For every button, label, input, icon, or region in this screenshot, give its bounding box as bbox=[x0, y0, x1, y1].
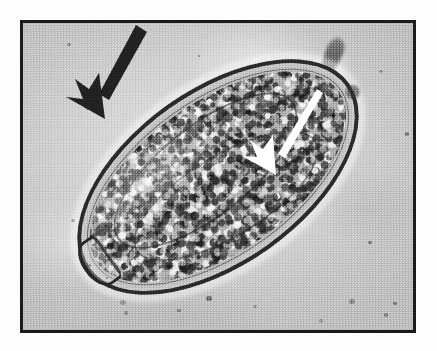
figure-root bbox=[0, 0, 437, 351]
debris-speck bbox=[384, 313, 388, 317]
debris-speck bbox=[87, 264, 90, 267]
debris-speck bbox=[393, 302, 396, 305]
debris-speck bbox=[379, 70, 382, 73]
bubble-icon bbox=[82, 95, 97, 110]
debris-speck bbox=[124, 311, 128, 315]
plate-frame bbox=[20, 20, 416, 333]
micrograph-image bbox=[23, 23, 413, 330]
debris-speck bbox=[253, 305, 256, 308]
debris-speck bbox=[319, 319, 323, 323]
debris-speck bbox=[206, 296, 211, 301]
